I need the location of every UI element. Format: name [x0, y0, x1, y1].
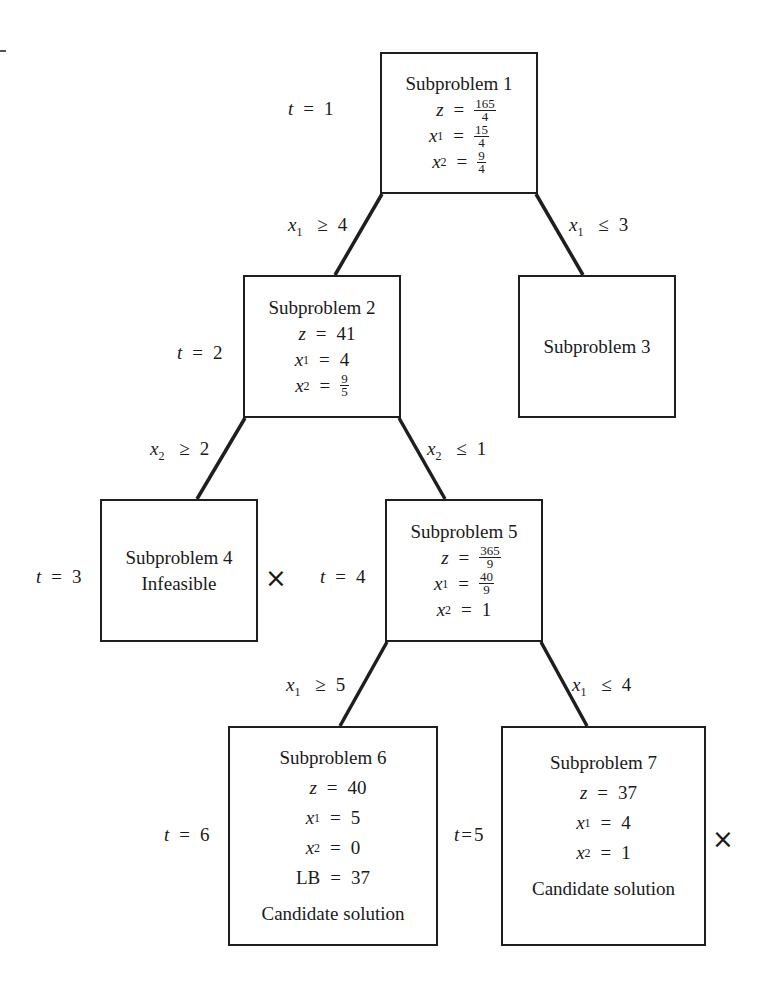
fathomed-mark-4: ×: [265, 565, 287, 591]
subproblem-4-node: Subproblem 4 Infeasible: [100, 499, 258, 642]
iteration-label-5: t=4: [320, 566, 366, 588]
node-title: Subproblem 5: [410, 519, 517, 545]
edge-5-6: [340, 642, 387, 726]
z-value: z= 1654: [436, 97, 496, 123]
iteration-label-2: t=2: [177, 342, 223, 364]
edge-label-5-7: x1 ≤4: [572, 674, 631, 700]
x1-value: x1= 409: [434, 571, 494, 597]
x1-value: x1= 154: [429, 123, 489, 149]
edge-label-2-4: x2 ≥2: [150, 438, 209, 464]
edge-label-1-3: x1 ≤3: [569, 214, 628, 240]
iteration-label-1: t=1: [288, 98, 334, 120]
node-status: Candidate solution: [532, 876, 675, 902]
node-title: Subproblem 3: [543, 334, 650, 360]
x2-value: x2= 94: [432, 149, 486, 175]
node-title: Subproblem 1: [405, 71, 512, 97]
node-title: Subproblem 6: [279, 745, 386, 771]
edge-label-1-2: x1 ≥4: [288, 214, 347, 240]
subproblem-7-node: Subproblem 7 z=37 x1=4 x2=1 Candidate so…: [501, 726, 706, 946]
z-value: z=41: [298, 321, 355, 347]
x2-value: x2=0: [306, 835, 361, 861]
x1-value: x1=4: [295, 347, 350, 373]
subproblem-6-node: Subproblem 6 z=40 x1=5 x2=0 LB=37 Candid…: [228, 726, 438, 946]
iteration-label-7: t=5: [454, 824, 484, 846]
node-title: Subproblem 7: [550, 750, 657, 776]
fathomed-mark-7: ×: [712, 826, 734, 852]
subproblem-2-node: Subproblem 2 z=41 x1=4 x2= 95: [243, 275, 401, 418]
subproblem-5-node: Subproblem 5 z= 3659 x1= 409 x2=1: [385, 499, 543, 642]
x2-value: x2=1: [576, 840, 631, 866]
lower-bound-value: LB=37: [296, 865, 370, 891]
node-status: Candidate solution: [261, 901, 404, 927]
z-value: z=37: [580, 780, 637, 806]
x1-value: x1=4: [576, 810, 631, 836]
node-status: Infeasible: [142, 571, 217, 597]
node-title: Subproblem 2: [268, 295, 375, 321]
x2-value: x2=1: [437, 597, 492, 623]
subproblem-1-node: Subproblem 1 z= 1654 x1= 154 x2= 94: [380, 52, 538, 194]
iteration-label-6: t=6: [164, 824, 210, 846]
subproblem-3-node: Subproblem 3: [518, 275, 676, 418]
iteration-label-4: t=3: [36, 566, 82, 588]
edge-label-5-6: x1 ≥5: [286, 674, 345, 700]
x1-value: x1=5: [306, 805, 361, 831]
branch-and-bound-diagram: x1 ≥4 x1 ≤3 x2 ≥2 x2 ≤1 x1 ≥5 x1 ≤4 t=1 …: [0, 0, 775, 993]
x2-value: x2= 95: [295, 373, 349, 399]
node-title: Subproblem 4: [125, 545, 232, 571]
edge-label-2-5: x2 ≤1: [427, 438, 486, 464]
z-value: z=40: [309, 775, 366, 801]
z-value: z= 3659: [441, 545, 501, 571]
